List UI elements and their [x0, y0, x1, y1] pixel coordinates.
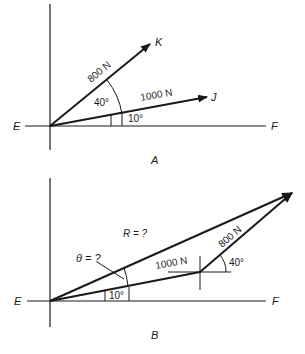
angle-arc-40: [107, 80, 122, 114]
label-10deg-a: 10°: [128, 113, 143, 124]
label-f-b: F: [272, 295, 280, 307]
label-40deg-b: 40°: [229, 257, 244, 268]
label-f-a: F: [271, 120, 279, 132]
caption-b: B: [151, 329, 158, 341]
label-e-a: E: [13, 120, 21, 132]
angle-arc-theta: [124, 268, 128, 286]
label-800n-a: 800 N: [85, 59, 113, 85]
label-resultant: R = ?: [123, 228, 148, 239]
vector-diagram: E F K J 800 N 40° 1000 N 10° A E F: [0, 0, 305, 354]
vector-800n-b: [200, 193, 292, 272]
label-1000n-b: 1000 N: [154, 255, 188, 271]
label-theta: θ = ?: [76, 252, 102, 264]
angle-arc-40-b: [220, 255, 226, 272]
label-40deg-a: 40°: [94, 97, 109, 108]
vector-1000n-b: [50, 272, 200, 301]
label-10deg-b: 10°: [109, 290, 124, 301]
label-j: J: [210, 91, 217, 103]
figure-b: E F R = ? θ = ? 1000 N 800 N 40° 10° B: [14, 178, 292, 341]
figure-a: E F K J 800 N 40° 1000 N 10° A: [13, 4, 279, 166]
caption-a: A: [150, 154, 158, 166]
vector-resultant: [50, 193, 292, 301]
label-1000n-a: 1000 N: [139, 87, 173, 103]
label-e-b: E: [14, 295, 22, 307]
label-k: K: [155, 36, 163, 48]
